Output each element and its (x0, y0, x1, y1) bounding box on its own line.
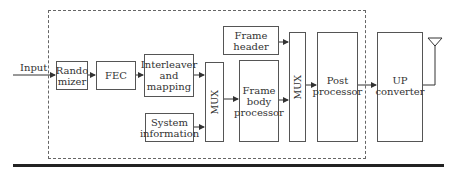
bottom-rule (13, 164, 444, 167)
connector-lines (0, 0, 456, 174)
